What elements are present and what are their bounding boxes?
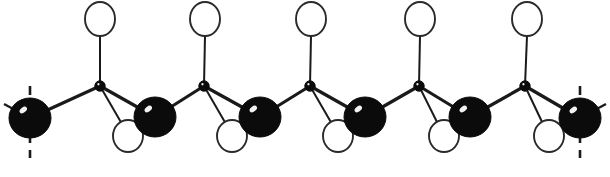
backbone-dark-atom-5 bbox=[449, 97, 491, 137]
backbone-dark-atom-1 bbox=[9, 98, 51, 138]
backbone-vertex-atom-5 bbox=[520, 81, 530, 91]
backbone-vertex-atom-3-highlight bbox=[307, 83, 309, 85]
backbone-dark-atom-3-body bbox=[239, 97, 281, 137]
backbone-dark-atom-6 bbox=[559, 98, 601, 138]
backbone-vertex-atom-5-body bbox=[520, 81, 530, 91]
backbone-vertex-atom-4-body bbox=[414, 81, 424, 91]
backbone-dark-atom-4-body bbox=[344, 97, 386, 137]
substituent-bond-top-2 bbox=[204, 36, 205, 86]
backbone-dark-atom-2 bbox=[134, 97, 176, 137]
backbone-vertex-atom-1 bbox=[95, 81, 105, 91]
molecule-figure bbox=[0, 0, 610, 177]
backbone-dark-atom-5-body bbox=[449, 97, 491, 137]
backbone-vertex-atom-3-body bbox=[305, 81, 315, 91]
backbone-vertex-atom-1-highlight bbox=[97, 83, 99, 85]
backbone-dark-atom-6-body bbox=[559, 98, 601, 138]
substituent-open-atom-top-5 bbox=[512, 2, 542, 36]
substituent-open-atom-top-2 bbox=[190, 2, 220, 36]
backbone-vertex-atom-3 bbox=[305, 81, 315, 91]
backbone-dark-atom-2-body bbox=[134, 97, 176, 137]
backbone-vertex-atom-2-highlight bbox=[201, 83, 203, 85]
substituent-open-atom-top-3 bbox=[296, 2, 326, 36]
backbone-vertex-atom-2 bbox=[199, 81, 209, 91]
backbone-vertex-atom-4 bbox=[414, 81, 424, 91]
backbone-vertex-atom-2-body bbox=[199, 81, 209, 91]
backbone-dark-atom-4 bbox=[344, 97, 386, 137]
backbone-dark-atom-3 bbox=[239, 97, 281, 137]
substituent-open-atom-bottom-5 bbox=[534, 120, 564, 152]
substituent-bond-top-3 bbox=[310, 36, 311, 86]
substituent-open-atom-top-4 bbox=[405, 2, 435, 36]
molecule-canvas bbox=[0, 0, 610, 177]
substituent-open-atom-top-1 bbox=[85, 2, 115, 36]
backbone-vertex-atom-5-highlight bbox=[522, 83, 524, 85]
substituent-bond-top-4 bbox=[419, 36, 420, 86]
backbone-vertex-atom-1-body bbox=[95, 81, 105, 91]
backbone-vertex-atom-4-highlight bbox=[416, 83, 418, 85]
backbone-dark-atom-1-body bbox=[9, 98, 51, 138]
